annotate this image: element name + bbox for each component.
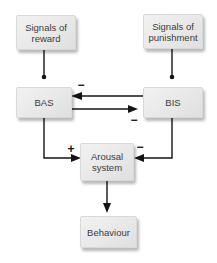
node-arousal-system-label: Arousal system [84, 151, 130, 173]
arrowhead-into-behaviour [103, 203, 111, 213]
node-arousal-system: Arousal system [80, 143, 134, 181]
sign-bas-inhibits-bis: − [130, 114, 137, 126]
node-signals-of-punishment: Signals of punishment [143, 14, 203, 49]
sign-bas-excites-arousal: + [67, 143, 74, 155]
node-bis: BIS [143, 87, 203, 118]
dot-terminal-bis [170, 75, 175, 80]
node-bis-label: BIS [165, 97, 180, 108]
node-bas-label: BAS [34, 97, 53, 108]
arrowhead-into-arousal-right [134, 154, 144, 162]
arrowhead-into-bis [128, 105, 138, 113]
sign-bis-inhibits-bas: − [77, 79, 84, 91]
node-bas: BAS [16, 87, 72, 118]
node-signals-of-punishment-label: Signals of punishment [147, 21, 199, 43]
bas-bis-arousal-diagram: Signals of reward Signals of punishment … [0, 0, 217, 263]
sign-bis-inhibits-arousal: − [136, 141, 143, 153]
node-signals-of-reward-label: Signals of reward [20, 22, 72, 44]
node-signals-of-reward: Signals of reward [16, 15, 76, 50]
edge-bis-to-arousal [144, 118, 172, 158]
dot-terminal-bas [42, 75, 47, 80]
node-behaviour: Behaviour [80, 216, 137, 248]
node-behaviour-label: Behaviour [87, 227, 130, 238]
arrowhead-into-bas [71, 92, 82, 100]
